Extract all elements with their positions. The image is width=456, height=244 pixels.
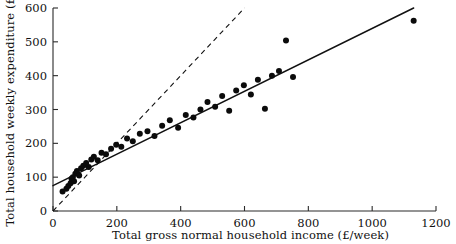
- data-point: [226, 108, 232, 114]
- data-point: [241, 82, 247, 88]
- data-point: [108, 146, 114, 152]
- scatter-plot-figure: 0100200300400500600 02004006008001000120…: [0, 0, 456, 244]
- data-point: [290, 74, 296, 80]
- data-point: [283, 37, 289, 43]
- y-tick-label: 600: [25, 1, 47, 15]
- data-point: [159, 123, 165, 129]
- trend-lines: [53, 8, 414, 211]
- data-point: [175, 125, 181, 131]
- y-tick-label: 300: [25, 103, 47, 117]
- y-tick-label: 200: [25, 136, 47, 150]
- data-point: [118, 144, 124, 150]
- data-point: [204, 99, 210, 105]
- data-point: [130, 138, 136, 144]
- regression-line: [53, 8, 414, 186]
- y-tick-label: 400: [25, 69, 47, 83]
- chart-canvas: 0100200300400500600 02004006008001000120…: [0, 0, 456, 244]
- y-tick-label: 0: [40, 204, 47, 218]
- data-point: [233, 88, 239, 94]
- data-points: [60, 18, 417, 195]
- x-axis-title: Total gross normal household income (£/w…: [112, 228, 389, 242]
- data-point: [71, 178, 77, 184]
- data-point: [212, 104, 218, 110]
- x-axis-ticks: 020040060080010001200: [49, 206, 450, 230]
- y-tick-label: 100: [25, 170, 47, 184]
- data-point: [248, 92, 254, 98]
- data-point: [197, 107, 203, 113]
- data-point: [103, 151, 109, 157]
- data-point: [269, 73, 275, 79]
- data-point: [86, 164, 92, 170]
- x-tick-label: 1200: [421, 216, 450, 230]
- data-point: [276, 68, 282, 74]
- x-tick-label: 0: [49, 216, 56, 230]
- data-point: [411, 18, 417, 24]
- data-point: [124, 136, 130, 142]
- data-point: [190, 115, 196, 121]
- data-point: [255, 77, 261, 83]
- data-point: [183, 112, 189, 118]
- data-point: [137, 131, 143, 137]
- data-point: [144, 128, 150, 134]
- data-point: [167, 117, 173, 123]
- data-point: [262, 106, 268, 112]
- y-tick-label: 500: [25, 35, 47, 49]
- data-point: [95, 157, 101, 163]
- data-point: [151, 133, 157, 139]
- data-point: [76, 172, 82, 178]
- data-point: [113, 142, 119, 148]
- y-axis-title: Total household weekly expenditure (£): [3, 0, 17, 227]
- data-point: [219, 93, 225, 99]
